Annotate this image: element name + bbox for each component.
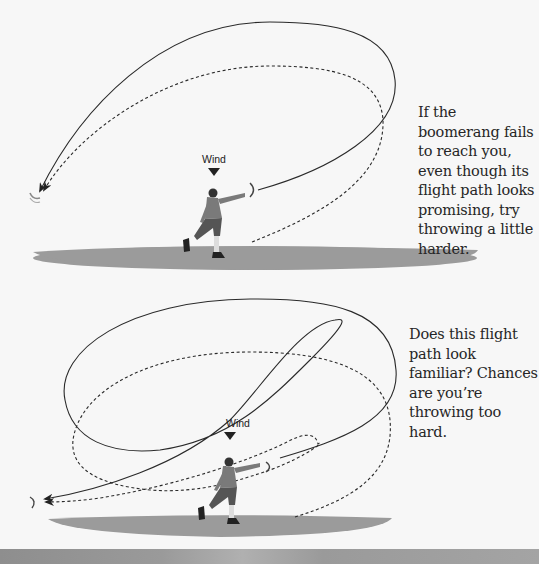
ground-shadow-shape (48, 515, 392, 537)
solid-flight-path (45, 299, 396, 499)
page-bottom-band (0, 549, 539, 564)
wind-arrow-icon (224, 432, 236, 440)
book-page: Wind If the boomerang fails to reach you… (0, 0, 539, 564)
figure-2-diagram (0, 0, 539, 564)
caption-figure-2: Does this flight path look familiar? Cha… (409, 325, 539, 442)
wind-label: Wind (226, 417, 250, 429)
thrower-figure (198, 458, 260, 525)
boomerang-icon (30, 497, 34, 508)
